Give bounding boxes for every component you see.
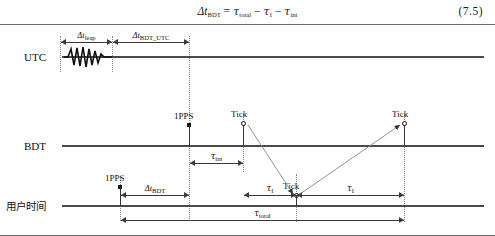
bdt-tick-2-pin [404, 125, 405, 146]
figure-bottom-border [0, 235, 495, 236]
bdt-tick-1-pin [243, 125, 244, 146]
dimension-label-tau-int: τint [190, 151, 243, 162]
equation-minus-2: − [275, 5, 282, 17]
row-label-utc: UTC [24, 51, 46, 63]
dimension-delta-bdt [121, 195, 189, 196]
row-label-bdt: BDT [24, 140, 46, 152]
marker-label-bdt-1pps: 1PPS [174, 111, 194, 121]
dimension-bdt-utc [113, 42, 189, 43]
timeline-bdt [62, 145, 484, 147]
dimension-label-tau-f-right: τf [297, 183, 404, 194]
tau-f-left-sub: f [271, 187, 273, 194]
dimension-tau-f-left [244, 195, 296, 196]
tau-int-sub: int [215, 155, 222, 162]
figure-page: ΔtBDT = τtotal − τf − τint (7.5) UTC [0, 0, 495, 236]
equation-number: (7.5) [458, 2, 483, 20]
marker-label-bdt-tick-1: Tick [231, 109, 247, 119]
marker-label-bdt-tick-2: Tick [392, 109, 408, 119]
equation-equals: = [224, 5, 231, 17]
bdt-1pps-pin [189, 125, 190, 146]
row-label-user-time: 用户时间 [6, 200, 46, 212]
equation-lhs-sub: BDT [207, 11, 220, 18]
bdt-utc-sub: BDT_UTC [140, 34, 170, 41]
marker-label-user-1pps: 1PPS [105, 173, 125, 183]
dimension-label-delta-bdt: ΔtBDT [121, 183, 189, 194]
equation-minus-1: − [254, 5, 261, 17]
equation-term2-tau: τ [263, 4, 269, 18]
dimension-tau-total [121, 220, 404, 221]
dimension-label-tau-total: τtotal [121, 208, 404, 219]
tau-f-right-sub: f [352, 187, 354, 194]
leap-sub: leap [85, 34, 96, 41]
dimension-label-bdt-utc: ΔtBDT_UTC [108, 30, 194, 41]
dimension-leap [61, 42, 112, 43]
equation-formula: ΔtBDT = τtotal − τf − τint [0, 2, 495, 22]
tau-total-sub: total [259, 212, 271, 219]
delta-bdt-sub: BDT [152, 187, 165, 194]
timing-diagram: UTC Δtleap ΔtBDT_UTC BDT 1PPS Tick Tick [0, 24, 495, 236]
equation-term2-sub: f [270, 11, 272, 18]
dimension-label-leap: Δtleap [61, 30, 112, 41]
equation-term1-sub: total [239, 11, 251, 18]
figure-top-border [0, 24, 495, 25]
dimension-tau-f-right [297, 195, 404, 196]
equation-term3-sub: int [290, 11, 297, 18]
timeline-utc [62, 56, 484, 58]
equation-row: ΔtBDT = τtotal − τf − τint (7.5) [0, 2, 495, 22]
leap-zigzag-icon [64, 44, 112, 70]
dimension-tau-int [190, 163, 243, 164]
dimension-label-tau-f-left: τf [244, 183, 296, 194]
timeline-user [62, 205, 484, 207]
